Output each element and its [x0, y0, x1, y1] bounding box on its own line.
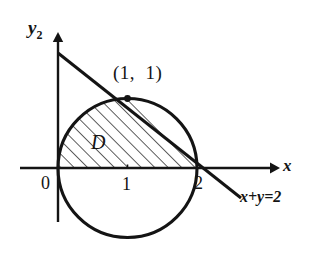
math-figure: y2 x (1, 1) D 0 1 2 x+y=2: [0, 0, 313, 257]
y-axis-label: y2: [28, 18, 42, 41]
region-label-d: D: [91, 132, 105, 152]
tick-label-1: 1: [122, 175, 131, 193]
tick-label-2: 2: [194, 174, 203, 192]
y-axis-label-subscript: 2: [36, 28, 42, 42]
point-label-1-1: (1, 1): [113, 63, 162, 82]
tick-label-0: 0: [41, 174, 50, 192]
figure-canvas: [0, 0, 313, 257]
line-equation-label: x+y=2: [240, 189, 281, 205]
point-marker-1-1: [124, 95, 131, 102]
x-axis-label: x: [283, 157, 292, 174]
